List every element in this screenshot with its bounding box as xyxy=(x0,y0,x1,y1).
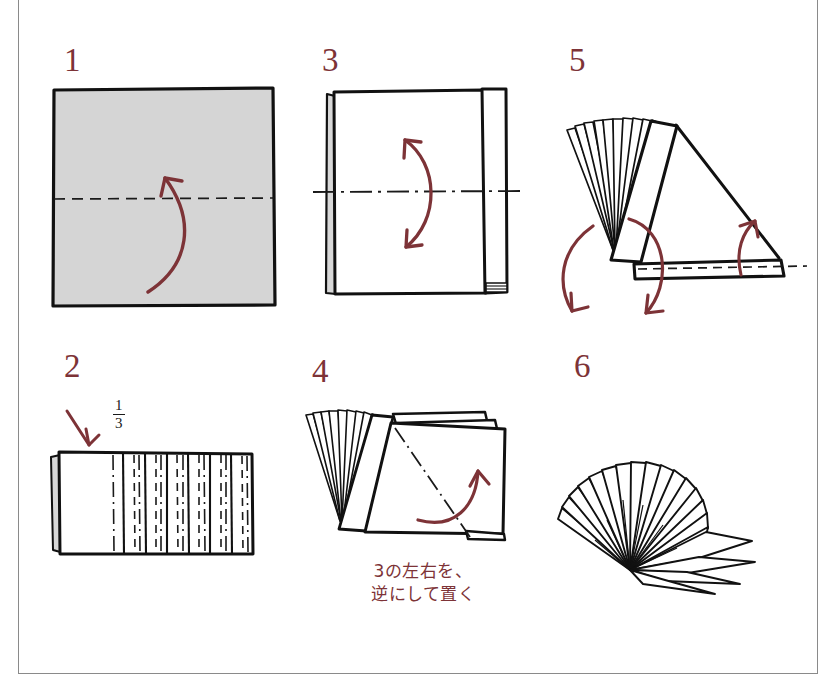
tab-foot-hatch xyxy=(486,283,507,292)
step-number-6: 6 xyxy=(574,350,591,383)
step-number-4: 4 xyxy=(312,355,329,388)
step-number-3: 3 xyxy=(322,44,339,77)
paper-square xyxy=(53,88,275,306)
page-rule-left xyxy=(18,0,19,674)
step-1-figure xyxy=(40,80,300,320)
step-5-figure xyxy=(545,80,825,330)
slope-edge xyxy=(676,125,779,258)
step-panel-5: 5 xyxy=(555,40,825,320)
step-panel-2: 2 1 3 xyxy=(40,350,300,580)
page-rule-bottom xyxy=(18,673,818,674)
one-third-arrow xyxy=(67,411,99,445)
step-panel-3: 3 xyxy=(310,40,570,320)
step-4-caption: 3の左右を、 逆にして置く xyxy=(328,560,518,606)
step-panel-4: 4 xyxy=(300,355,570,615)
step-2-figure xyxy=(40,390,300,580)
step-3-figure xyxy=(310,80,570,320)
rotate-arrow-left xyxy=(563,226,593,311)
step-number-5: 5 xyxy=(569,44,586,77)
step-6-figure xyxy=(555,380,830,600)
step-4-figure xyxy=(300,403,570,553)
instruction-sheet: 1 3 xyxy=(0,0,837,685)
step-panel-1: 1 xyxy=(40,40,300,320)
step-panel-6: 6 xyxy=(560,350,830,600)
step-number-2: 2 xyxy=(64,350,81,383)
step-number-1: 1 xyxy=(64,44,81,77)
